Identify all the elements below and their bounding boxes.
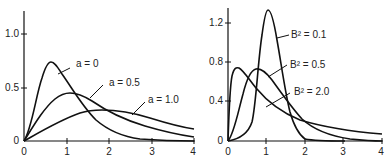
figure: 1.0 0.5 0 0 1 2 3 4 a = 0 a = 0.5 a = 1.… [0, 0, 392, 161]
right-ytick-label: 0.8 [209, 56, 223, 67]
right-ytick-label: 1.2 [209, 17, 223, 28]
left-chart [21, 11, 195, 144]
leader-a-0.5 [90, 85, 103, 98]
leader-b2-0.5 [268, 65, 287, 77]
left-ytick-label: 0 [13, 135, 19, 146]
right-xtick-label: 3 [340, 146, 346, 157]
curve-a-1.0 [24, 110, 194, 141]
left-ytick-label: 0.5 [5, 82, 19, 93]
left-xtick-label: 1 [64, 146, 70, 157]
annotation-b2-0.1: B² = 0.1 [291, 29, 327, 40]
leader-b2-0.1 [277, 35, 289, 38]
left-xtick-label: 0 [21, 146, 27, 157]
right-ytick-label: 0.4 [209, 95, 223, 106]
right-xtick-label: 1 [263, 146, 269, 157]
right-labels: 1.2 0.8 0.4 0 0 1 2 3 4 B² = 0.1 B² = 0.… [209, 17, 384, 157]
right-xtick-label: 4 [378, 146, 384, 157]
left-xtick-label: 4 [190, 146, 196, 157]
annotation-b2-0.5: B² = 0.5 [290, 59, 326, 70]
annotation-a-0: a = 0 [76, 58, 99, 69]
right-xtick-label: 2 [302, 146, 308, 157]
curve-b2-2.0 [228, 68, 382, 141]
curve-b2-0.5 [228, 69, 382, 141]
left-xtick-label: 3 [149, 146, 155, 157]
annotation-a-1.0: a = 1.0 [148, 94, 179, 105]
right-xtick-label: 0 [225, 146, 231, 157]
annotation-a-0.5: a = 0.5 [109, 77, 140, 88]
leader-a-1.0 [132, 102, 145, 115]
left-ytick-label: 1.0 [5, 28, 19, 39]
left-xtick-label: 2 [106, 146, 112, 157]
annotation-b2-2.0: B² = 2.0 [294, 86, 330, 97]
left-labels: 1.0 0.5 0 0 1 2 3 4 a = 0 a = 0.5 a = 1.… [5, 28, 196, 157]
right-ytick-label: 0 [217, 135, 223, 146]
